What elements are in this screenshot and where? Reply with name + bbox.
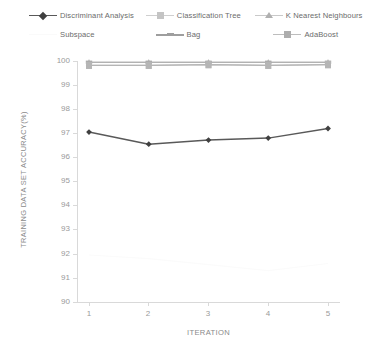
chart-plot-series bbox=[0, 0, 382, 351]
series-discriminant-analysis bbox=[86, 126, 331, 147]
data-point bbox=[146, 141, 152, 147]
data-point bbox=[206, 137, 212, 143]
data-point bbox=[265, 135, 271, 141]
data-point bbox=[146, 62, 152, 69]
data-point bbox=[325, 126, 331, 132]
data-point bbox=[86, 62, 92, 69]
series-subspace bbox=[89, 255, 328, 271]
data-point bbox=[325, 61, 331, 68]
data-point bbox=[265, 62, 271, 69]
line-chart: Discriminant Analysis Classification Tre… bbox=[0, 0, 382, 351]
data-point bbox=[206, 61, 212, 68]
data-point bbox=[86, 129, 92, 135]
